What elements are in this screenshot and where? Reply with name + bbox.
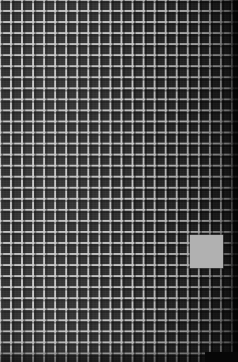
mesh-strand-shadows [0,0,238,362]
image-canvas [0,0,238,362]
dark-corner-block [205,352,238,362]
gray-square-patch [190,235,223,268]
